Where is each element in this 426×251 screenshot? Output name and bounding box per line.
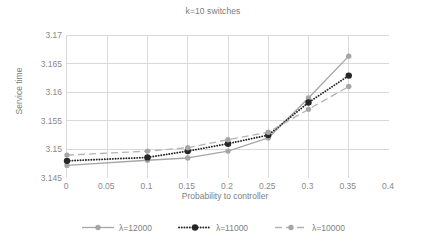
legend-item-1[interactable]: λ=11000 <box>178 222 248 233</box>
series-lines <box>67 35 389 178</box>
data-point-marker <box>64 158 70 164</box>
legend-label: λ=11000 <box>216 223 248 233</box>
x-tick-label: 0.05 <box>89 181 123 191</box>
legend-item-2[interactable]: λ=10000 <box>274 222 345 233</box>
y-tick-label: 3.15 <box>28 145 62 153</box>
y-tick-label: 3.16 <box>28 88 62 96</box>
x-tick-label: 0.2 <box>210 181 244 191</box>
chart-container: k=10 switches Service time 3.1453.153.15… <box>0 0 426 251</box>
data-point-marker <box>145 148 150 153</box>
x-tick-label: 0.3 <box>291 181 325 191</box>
data-point-marker <box>305 99 311 105</box>
data-point-marker <box>346 53 351 58</box>
data-point-marker <box>225 137 230 142</box>
data-point-marker <box>225 148 230 153</box>
legend-swatch-icon <box>274 222 308 233</box>
y-axis-tick-labels: 3.1453.153.1553.163.1653.17 <box>22 35 62 178</box>
x-tick-label: 0.15 <box>170 181 204 191</box>
x-tick-label: 0 <box>49 181 83 191</box>
series-line-1 <box>67 76 349 161</box>
x-tick-label: 0.25 <box>250 181 284 191</box>
y-tick-label: 3.165 <box>28 60 62 68</box>
data-point-marker <box>346 72 352 78</box>
y-tick-label: 3.17 <box>28 31 62 39</box>
legend-swatch-icon <box>81 222 115 233</box>
data-point-marker <box>185 145 190 150</box>
plot-area <box>66 35 388 178</box>
data-point-marker <box>64 152 69 157</box>
data-point-marker <box>266 130 271 135</box>
x-tick-label: 0.1 <box>130 181 164 191</box>
data-point-marker <box>346 84 351 89</box>
data-point-marker <box>144 154 150 160</box>
chart-legend: λ=12000λ=11000λ=10000 <box>0 222 426 233</box>
legend-swatch-icon <box>178 222 212 233</box>
x-tick-label: 0.35 <box>331 181 365 191</box>
chart-title: k=10 switches <box>0 6 426 16</box>
y-tick-label: 3.155 <box>28 117 62 125</box>
legend-label: λ=12000 <box>119 223 152 233</box>
data-point-marker <box>306 107 311 112</box>
legend-label: λ=10000 <box>312 223 345 233</box>
x-axis-title: Probability to controller <box>55 191 395 201</box>
legend-item-0[interactable]: λ=12000 <box>81 222 152 233</box>
x-tick-label: 0.4 <box>371 181 405 191</box>
data-point-marker <box>185 155 190 160</box>
